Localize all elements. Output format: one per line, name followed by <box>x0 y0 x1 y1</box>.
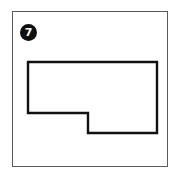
l-shaped-polygon-outline <box>28 62 157 133</box>
figure-panel: 7 <box>0 0 175 177</box>
figure-number-badge-icon: 7 <box>20 24 37 41</box>
